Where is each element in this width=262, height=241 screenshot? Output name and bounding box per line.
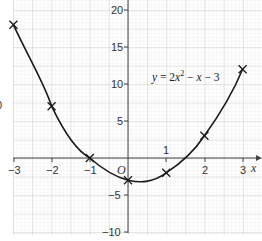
- x-axis-label: x: [250, 161, 257, 175]
- y-tick-label: −10: [102, 226, 121, 238]
- origin-label: O: [117, 163, 126, 177]
- y-tick-label: 20: [111, 4, 123, 16]
- x-tick-label: −3: [8, 164, 21, 176]
- y-tick-label: 15: [111, 41, 123, 53]
- edge-fragment-label: 0: [0, 99, 2, 111]
- y-tick-label: −5: [108, 189, 121, 201]
- y-tick-label: 5: [117, 115, 123, 127]
- x-tick-label: −1: [84, 164, 97, 176]
- equation-label: y = 2x2 − x − 3: [151, 69, 220, 84]
- y-tick-label: 10: [111, 78, 123, 90]
- x-tick-label: 1: [163, 144, 169, 156]
- quadratic-graph: x −3 −2 −1 1 2 3 O 20 15 10 5 −5 −10 0: [0, 0, 262, 241]
- x-tick-label: −2: [46, 164, 59, 176]
- grid: [13, 0, 262, 235]
- x-tick-label: 2: [202, 164, 208, 176]
- x-tick-label: 3: [240, 164, 246, 176]
